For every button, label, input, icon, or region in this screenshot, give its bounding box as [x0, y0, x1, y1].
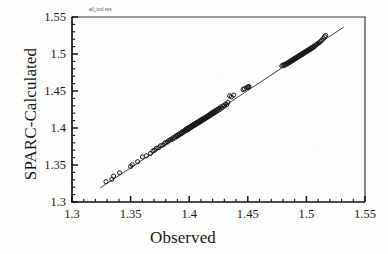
x-tick-label: 1.45: [228, 207, 268, 222]
y-tick-label: 1.4: [26, 121, 66, 136]
figure-header-note: all_incl.res: [89, 6, 112, 14]
x-tick-label: 1.3: [52, 207, 92, 222]
y-tick-label: 1.35: [26, 158, 66, 173]
figure-canvas: all_incl.res SPARC-Calculated Observed 1…: [0, 0, 388, 254]
y-tick-label: 1.45: [26, 84, 66, 99]
x-tick-label: 1.35: [111, 207, 151, 222]
y-tick-label: 1.55: [26, 10, 66, 25]
data-point-markers: [104, 33, 328, 183]
x-tick-label: 1.55: [345, 207, 385, 222]
x-tick-label: 1.4: [169, 207, 209, 222]
x-axis-title: Observed: [150, 228, 216, 248]
x-tick-label: 1.5: [286, 207, 326, 222]
y-tick-label: 1.5: [26, 47, 66, 62]
